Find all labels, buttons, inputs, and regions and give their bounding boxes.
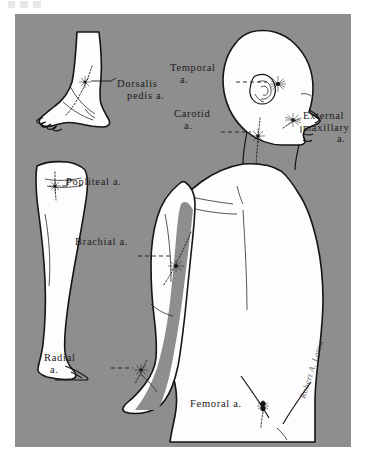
- pressure-point-radial: [134, 364, 148, 376]
- pressure-point-popliteal: [49, 180, 61, 192]
- pressure-point-brachial: [168, 260, 184, 272]
- label-brachial-line1: Brachial a.: [75, 236, 128, 248]
- page-top-artifact: [8, 1, 42, 8]
- label-temporal-line1: Temporal: [170, 62, 216, 74]
- label-temporal-line2: a.: [170, 74, 216, 86]
- label-temporal: Temporal a.: [170, 62, 216, 85]
- label-radial: Radial a.: [44, 352, 76, 375]
- label-carotid: Carotid a.: [174, 108, 210, 131]
- label-carotid-line2: a.: [174, 120, 210, 132]
- label-popliteal-line1: Popliteal a.: [66, 176, 122, 188]
- label-brachial: Brachial a.: [75, 236, 128, 248]
- label-external-maxillary-line3: a.: [303, 133, 361, 145]
- label-external-maxillary-line2: maxillary: [303, 122, 361, 134]
- label-dorsalis-pedis-line1: Dorsalis: [117, 78, 165, 90]
- pressure-point-dorsalis-pedis: [79, 76, 91, 88]
- label-femoral-line1: Femoral a.: [190, 398, 242, 410]
- label-radial-line1: Radial: [44, 352, 76, 364]
- label-dorsalis-pedis-line2: pedis a.: [117, 90, 165, 102]
- pressure-point-carotid: [251, 129, 265, 143]
- label-radial-line2: a.: [44, 364, 76, 376]
- label-dorsalis-pedis: Dorsalis pedis a.: [117, 78, 165, 101]
- figure-lower-leg: [36, 162, 88, 380]
- figure-foot-ankle: [37, 32, 116, 131]
- label-femoral: Femoral a.: [190, 398, 242, 410]
- label-popliteal: Popliteal a.: [66, 176, 122, 188]
- label-carotid-line1: Carotid: [174, 108, 210, 120]
- label-external-maxillary: External maxillary a.: [303, 110, 361, 145]
- illustration-page: .fig { fill:#fdfdfd; stroke:#151515; str…: [0, 0, 366, 459]
- label-external-maxillary-line1: External: [303, 110, 361, 122]
